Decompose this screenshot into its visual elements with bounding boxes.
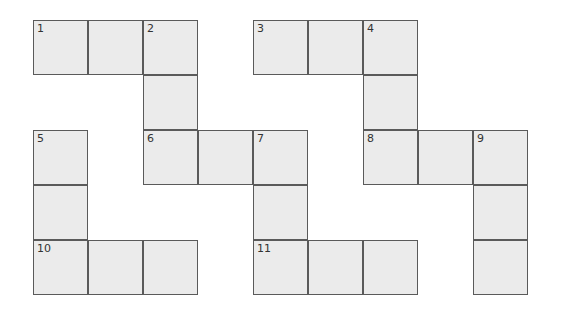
crossword-cell[interactable] (33, 185, 88, 240)
crossword-cell[interactable] (363, 75, 418, 130)
clue-number: 11 (257, 243, 271, 254)
crossword-cell[interactable] (473, 185, 528, 240)
crossword-cell[interactable]: 5 (33, 130, 88, 185)
crossword-cell[interactable]: 10 (33, 240, 88, 295)
clue-number: 4 (367, 23, 374, 34)
crossword-cell[interactable]: 6 (143, 130, 198, 185)
crossword-cell[interactable] (308, 240, 363, 295)
crossword-cell[interactable] (308, 20, 363, 75)
crossword-cell[interactable]: 3 (253, 20, 308, 75)
clue-number: 2 (147, 23, 154, 34)
crossword-cell[interactable]: 4 (363, 20, 418, 75)
crossword-cell[interactable] (418, 130, 473, 185)
crossword-cell[interactable] (143, 240, 198, 295)
crossword-cell[interactable] (198, 130, 253, 185)
crossword-cell[interactable] (88, 20, 143, 75)
crossword-cell[interactable]: 9 (473, 130, 528, 185)
crossword-cell[interactable]: 7 (253, 130, 308, 185)
crossword-cell[interactable] (473, 240, 528, 295)
clue-number: 8 (367, 133, 374, 144)
crossword-cell[interactable]: 11 (253, 240, 308, 295)
crossword-cell[interactable] (363, 240, 418, 295)
crossword-cell[interactable] (253, 185, 308, 240)
crossword-cell[interactable]: 1 (33, 20, 88, 75)
crossword-cell[interactable]: 8 (363, 130, 418, 185)
clue-number: 9 (477, 133, 484, 144)
crossword-cell[interactable] (88, 240, 143, 295)
clue-number: 1 (37, 23, 44, 34)
crossword-cell[interactable]: 2 (143, 20, 198, 75)
clue-number: 6 (147, 133, 154, 144)
clue-number: 5 (37, 133, 44, 144)
clue-number: 7 (257, 133, 264, 144)
clue-number: 3 (257, 23, 264, 34)
clue-number: 10 (37, 243, 51, 254)
crossword-cell[interactable] (143, 75, 198, 130)
crossword-grid: 1234567891011 (0, 0, 565, 315)
